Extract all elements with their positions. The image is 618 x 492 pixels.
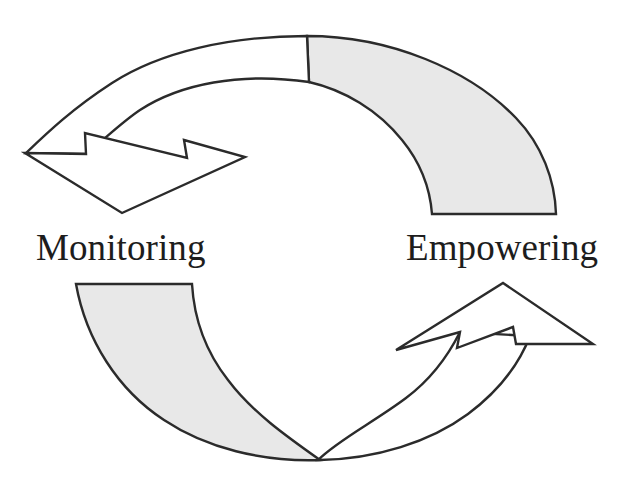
top-arrow-body-white	[26, 36, 309, 154]
cycle-diagram: Monitoring Empowering	[0, 0, 618, 492]
label-monitoring: Monitoring	[36, 229, 206, 266]
top-arrow-tail-gray	[307, 36, 556, 214]
bottom-arrow-body-white	[318, 332, 530, 460]
bottom-arrow-tail-gray	[76, 284, 320, 460]
label-empowering: Empowering	[406, 229, 598, 266]
